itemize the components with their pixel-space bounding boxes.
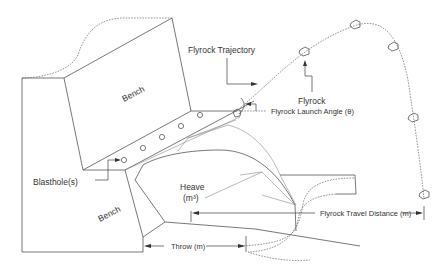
lower-bench-label: Bench xyxy=(96,203,122,223)
blasthole xyxy=(159,134,164,139)
launch-angle: Flyrock Launch Angle (θ) xyxy=(236,102,354,116)
throw-dimension: Throw (m) xyxy=(143,236,246,252)
flyrock-fragment-icon xyxy=(350,20,360,29)
travel-distance-dimension: Flyrock Travel Distance (m) xyxy=(191,206,424,222)
ground-contour xyxy=(240,178,354,261)
flyrock-label: Flyrock xyxy=(298,96,326,106)
blasthole xyxy=(140,145,145,150)
heave-label: Heave xyxy=(180,182,205,192)
blasthole-callout: Blasthole(s) xyxy=(33,158,121,187)
blasthole xyxy=(197,112,202,117)
travel-distance-label: Flyrock Travel Distance (m) xyxy=(320,209,412,218)
launch-angle-label: Flyrock Launch Angle (θ) xyxy=(271,107,354,116)
flyrock-callout: Flyrock xyxy=(298,60,326,106)
flyrock-fragment-icon xyxy=(388,42,398,51)
trajectory-callout: Flyrock Trajectory xyxy=(188,45,258,86)
trajectory-label: Flyrock Trajectory xyxy=(188,45,256,55)
blasthole xyxy=(121,157,126,162)
flyrock-diagram: Throw (m) Flyrock Travel Distance (m) Fl… xyxy=(0,0,447,266)
flyrock-fragment-icon xyxy=(299,47,309,56)
blasthole-row xyxy=(83,111,236,170)
upper-bench-label: Bench xyxy=(120,83,146,103)
blastholes-label: Blasthole(s) xyxy=(33,177,78,187)
heave-pile xyxy=(135,120,360,246)
blasthole xyxy=(178,123,183,128)
throw-label: Throw (m) xyxy=(171,242,206,251)
heave-unit-label: (m³) xyxy=(183,193,199,203)
